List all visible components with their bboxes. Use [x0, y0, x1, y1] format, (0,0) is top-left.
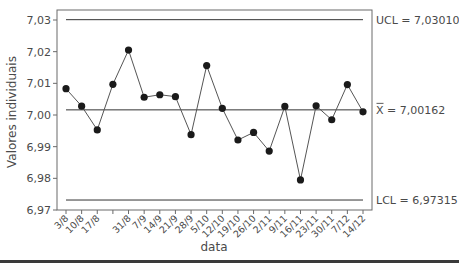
mean-label: X = 7,00162	[376, 104, 445, 117]
data-point	[187, 131, 194, 138]
data-point	[234, 136, 241, 143]
data-point	[78, 103, 85, 110]
data-point	[156, 91, 163, 98]
y-axis-ticks: 7,037,027,017,006,996,986,97	[27, 14, 58, 217]
series-line	[66, 50, 363, 180]
data-point	[172, 93, 179, 100]
data-point	[297, 176, 304, 183]
y-tick-label: 7,01	[27, 77, 52, 90]
x-axis-label: data	[200, 240, 227, 254]
data-point	[141, 94, 148, 101]
y-axis-title: Valores individuais	[5, 56, 19, 168]
y-tick-label: 6,97	[27, 204, 52, 217]
data-point	[250, 129, 257, 136]
y-tick-label: 6,99	[27, 141, 52, 154]
data-point	[359, 108, 366, 115]
y-tick-label: 7,00	[27, 109, 52, 122]
control-limit-lines	[66, 20, 363, 200]
y-tick-label: 6,98	[27, 172, 52, 185]
chart-canvas: Valores individuais data 7,037,027,017,0…	[0, 0, 459, 265]
data-point	[203, 62, 210, 69]
data-point	[62, 85, 69, 92]
control-chart: Valores individuais data 7,037,027,017,0…	[0, 0, 459, 265]
x-tick-label: 17/8	[79, 213, 102, 236]
data-point	[125, 46, 132, 53]
lcl-label: LCL = 6,97315	[376, 194, 458, 207]
y-tick-label: 7,02	[27, 46, 52, 59]
data-point	[109, 81, 116, 88]
data-point	[266, 148, 273, 155]
y-tick-label: 7,03	[27, 14, 52, 27]
ucl-label: UCL = 7,03010	[376, 14, 459, 27]
data-point	[328, 116, 335, 123]
bottom-divider	[0, 260, 459, 263]
y-axis-label: Valores individuais	[5, 56, 19, 168]
data-point	[313, 102, 320, 109]
data-point	[344, 81, 351, 88]
data-point	[94, 126, 101, 133]
x-axis-ticks: 3/810/817/831/87/914/921/928/95/1012/101…	[52, 210, 368, 240]
data-series	[62, 46, 366, 183]
data-point	[219, 105, 226, 112]
data-point	[281, 103, 288, 110]
control-limit-labels: UCL = 7,03010X = 7,00162LCL = 6,97315	[376, 14, 459, 207]
